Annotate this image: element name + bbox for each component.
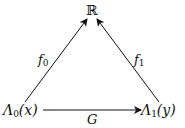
lambda0-arg: (x): [19, 102, 38, 118]
arrow-f1: [97, 19, 159, 102]
f0-sub: 0: [43, 58, 49, 68]
g-symbol: G: [87, 112, 97, 127]
arrow-f0: [25, 19, 87, 102]
edge-label-f1: f1: [134, 53, 145, 68]
node-reals: ℝ: [86, 3, 98, 17]
lambda1-arg: (y): [157, 102, 176, 118]
reals-label: ℝ: [86, 2, 98, 18]
lambda0-symbol: Λ: [3, 102, 13, 118]
f1-sub: 1: [139, 58, 145, 68]
lambda1-symbol: Λ: [141, 102, 151, 118]
edge-label-f0: f0: [38, 53, 49, 68]
node-lambda-1: Λ1(y): [141, 103, 176, 119]
commutative-diagram: ℝ Λ0(x) Λ1(y) f0 f1 G: [0, 0, 185, 128]
node-lambda-0: Λ0(x): [3, 103, 38, 119]
edge-label-g: G: [87, 113, 97, 126]
